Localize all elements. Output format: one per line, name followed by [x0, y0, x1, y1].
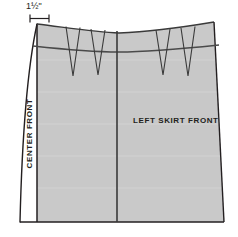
dimension-line-group — [30, 15, 49, 23]
extension-dimension-label: 1½" — [26, 1, 42, 11]
left-skirt-front-label: LEFT SKIRT FRONT — [133, 116, 219, 125]
pattern-diagram-canvas: 1½" CENTER FRONT LEFT SKIRT FRONT — [0, 0, 238, 237]
center-front-label: CENTER FRONT — [25, 86, 34, 182]
